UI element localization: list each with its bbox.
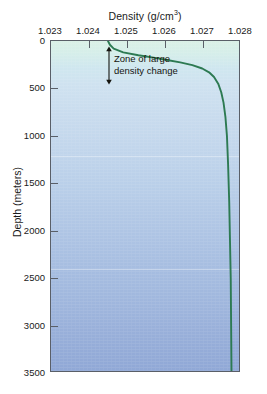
y-tick-label: 1000	[3, 129, 45, 140]
y-tick-label: 1500	[3, 177, 45, 188]
y-tick-label: 3500	[3, 367, 45, 378]
density-curve-svg	[51, 41, 240, 372]
x-axis-title: Density (g/cm3)	[50, 9, 240, 22]
x-axis-title-tail: )	[178, 10, 182, 22]
y-axis-title: Depth (meters)	[11, 152, 23, 252]
chart-figure: Density (g/cm3) Depth (meters) 1.0231.02…	[0, 0, 267, 394]
y-tick-label: 0	[3, 35, 45, 46]
y-tick-label: 3000	[3, 319, 45, 330]
x-tick-label: 1.028	[228, 25, 252, 36]
plot-area	[50, 40, 240, 372]
x-tick-label: 1.024	[76, 25, 100, 36]
x-axis-title-base: Density (g/cm	[108, 10, 173, 22]
density-curve-line	[108, 41, 232, 372]
x-tick-label: 1.027	[190, 25, 214, 36]
y-tick-label: 2000	[3, 224, 45, 235]
pycnocline-label-line2: density change	[114, 65, 178, 77]
pycnocline-arrow-icon	[104, 46, 114, 85]
x-tick-label: 1.025	[114, 25, 138, 36]
pycnocline-label-line1: Zone of large	[114, 53, 170, 65]
y-tick-label: 500	[3, 82, 45, 93]
x-tick-label: 1.026	[152, 25, 176, 36]
y-tick-label: 2500	[3, 272, 45, 283]
